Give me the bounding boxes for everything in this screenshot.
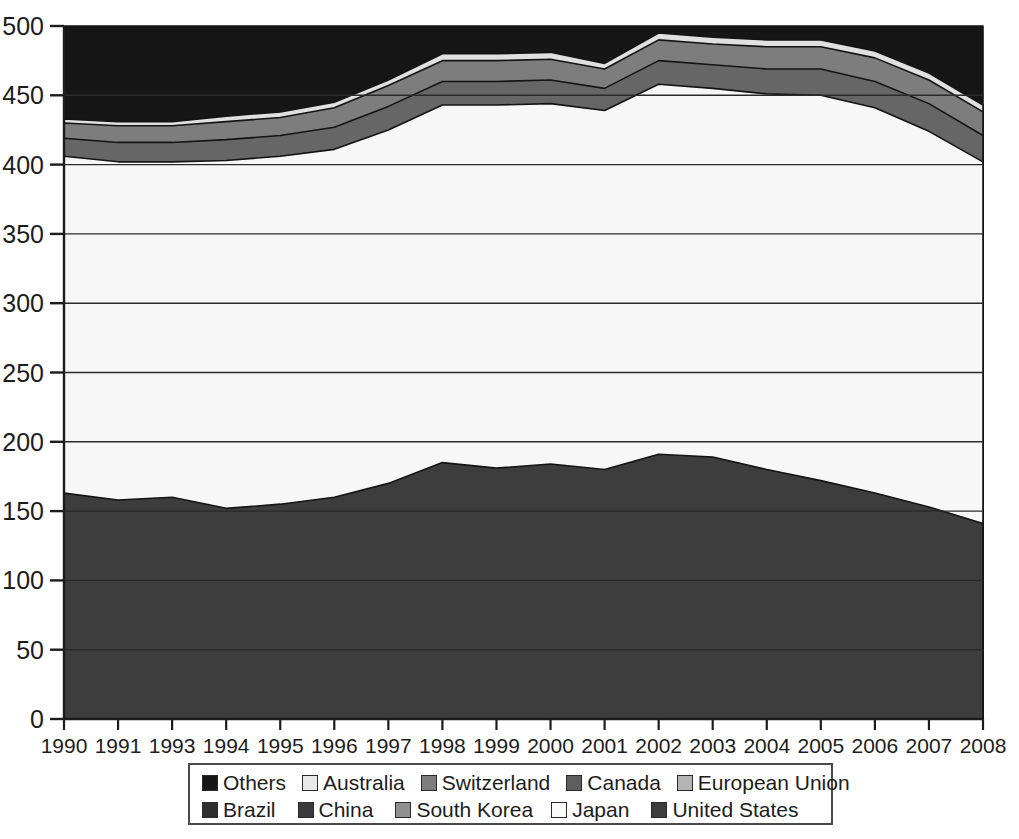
legend-label-canada: Canada — [587, 772, 661, 793]
x-axis-ticks — [64, 719, 983, 730]
y-tick-label-100: 100 — [2, 566, 44, 594]
x-tick-label-2005: 2005 — [797, 734, 844, 757]
y-tick-label-50: 50 — [16, 636, 44, 664]
y-tick-label-150: 150 — [2, 497, 44, 525]
y-axis-ticks — [50, 26, 64, 719]
legend-swatch-brazil — [202, 802, 218, 818]
legend-item-australia[interactable]: Australia — [302, 772, 405, 793]
x-tick-label-2002: 2002 — [635, 734, 682, 757]
legend-item-south-korea[interactable]: South Korea — [395, 799, 533, 820]
x-tick-label-2008: 2008 — [960, 734, 1007, 757]
x-tick-label-2004: 2004 — [743, 734, 790, 757]
x-tick-label-1993: 1993 — [149, 734, 196, 757]
legend-swatch-japan — [551, 802, 567, 818]
legend-label-australia: Australia — [323, 772, 405, 793]
legend-swatch-china — [298, 802, 314, 818]
legend-label-switzerland: Switzerland — [442, 772, 551, 793]
x-tick-label-1990: 1990 — [41, 734, 88, 757]
x-tick-label-1995: 1995 — [257, 734, 304, 757]
legend-swatch-others — [202, 775, 218, 791]
x-tick-label-2007: 2007 — [906, 734, 953, 757]
y-tick-label-400: 400 — [2, 151, 44, 179]
x-tick-label-2001: 2001 — [581, 734, 628, 757]
legend-swatch-australia — [302, 775, 318, 791]
legend-swatch-south-korea — [395, 802, 411, 818]
y-tick-label-450: 450 — [2, 81, 44, 109]
legend-item-canada[interactable]: Canada — [566, 772, 661, 793]
stacked-area-chart: 050100150200250300350400450500 199019911… — [0, 0, 1019, 760]
x-tick-label-2003: 2003 — [689, 734, 736, 757]
y-tick-label-0: 0 — [30, 705, 44, 733]
legend-label-others: Others — [223, 772, 286, 793]
y-tick-label-500: 500 — [2, 12, 44, 40]
y-tick-label-200: 200 — [2, 428, 44, 456]
x-tick-label-1996: 1996 — [311, 734, 358, 757]
legend-label-china: China — [319, 799, 374, 820]
y-tick-label-250: 250 — [2, 359, 44, 387]
x-axis-tick-labels: 1990199119931994199519961997199819992000… — [41, 734, 1007, 757]
x-tick-label-1991: 1991 — [95, 734, 142, 757]
x-tick-label-2006: 2006 — [852, 734, 899, 757]
legend-item-brazil[interactable]: Brazil — [202, 799, 276, 820]
x-tick-label-1998: 1998 — [419, 734, 466, 757]
legend-label-south-korea: South Korea — [416, 799, 533, 820]
legend-item-china[interactable]: China — [298, 799, 374, 820]
chart-legend: Others Australia Switzerland Canada Euro… — [188, 763, 833, 825]
legend-label-brazil: Brazil — [223, 799, 276, 820]
legend-label-united-states: United States — [672, 799, 798, 820]
x-tick-label-1997: 1997 — [365, 734, 412, 757]
y-tick-label-350: 350 — [2, 220, 44, 248]
x-tick-label-1999: 1999 — [473, 734, 520, 757]
legend-label-european-union: European Union — [698, 772, 850, 793]
legend-row-2: Brazil China South Korea Japan United St… — [202, 796, 823, 823]
legend-item-japan[interactable]: Japan — [551, 799, 629, 820]
y-axis-tick-labels: 050100150200250300350400450500 — [2, 12, 44, 733]
legend-item-united-states[interactable]: United States — [651, 799, 798, 820]
y-tick-label-300: 300 — [2, 289, 44, 317]
x-tick-label-2000: 2000 — [527, 734, 574, 757]
legend-item-european-union[interactable]: European Union — [677, 772, 850, 793]
legend-swatch-united-states — [651, 802, 667, 818]
legend-label-japan: Japan — [572, 799, 629, 820]
legend-swatch-switzerland — [421, 775, 437, 791]
chart-page: 050100150200250300350400450500 199019911… — [0, 0, 1019, 839]
legend-item-switzerland[interactable]: Switzerland — [421, 772, 551, 793]
legend-swatch-canada — [566, 775, 582, 791]
x-tick-label-1994: 1994 — [203, 734, 250, 757]
legend-swatch-european-union — [677, 775, 693, 791]
legend-row-1: Others Australia Switzerland Canada Euro… — [202, 769, 823, 796]
legend-item-others[interactable]: Others — [202, 772, 286, 793]
